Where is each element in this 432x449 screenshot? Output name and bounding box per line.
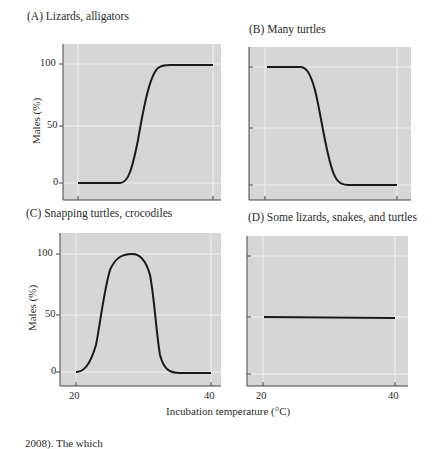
panel-c-chart <box>56 233 221 386</box>
panel-b-chart <box>249 47 411 200</box>
panel-d-chart <box>247 236 408 386</box>
panel-a-chart <box>59 44 221 200</box>
